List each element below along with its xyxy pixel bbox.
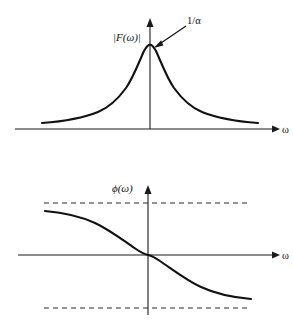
- magnitude-x-axis-label: ω: [282, 124, 289, 135]
- phase-y-axis-arrowhead: [145, 185, 152, 194]
- magnitude-y-axis-arrowhead: [147, 18, 154, 27]
- phase-y-axis-label: ϕ(ω): [112, 182, 133, 195]
- peak-annotation-arrowhead: [154, 40, 164, 48]
- phase-x-axis-label: ω: [282, 250, 289, 261]
- figure-root: |F(ω)| 1/α ω ϕ(ω) ω: [0, 0, 293, 328]
- spectrum-figure-svg: |F(ω)| 1/α ω ϕ(ω) ω: [0, 0, 293, 328]
- phase-x-axis-arrowhead: [272, 251, 280, 258]
- magnitude-panel: |F(ω)| 1/α ω: [15, 15, 289, 135]
- peak-value-label: 1/α: [187, 15, 201, 26]
- phase-panel: ϕ(ω) ω: [18, 182, 289, 315]
- magnitude-y-axis-label: |F(ω)|: [113, 31, 141, 44]
- peak-annotation-arrow: [158, 26, 186, 45]
- magnitude-x-axis-arrowhead: [272, 125, 280, 132]
